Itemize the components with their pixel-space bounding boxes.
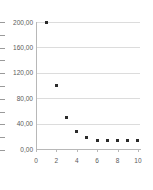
x-tick-mark (97, 150, 98, 152)
x-tick-label: 0 (26, 157, 46, 164)
x-tick-mark (118, 150, 119, 152)
x-tick-label: 8 (108, 157, 128, 164)
x-tick-label: 4 (67, 157, 87, 164)
x-tick-mark (77, 150, 78, 152)
x-tick-mark (36, 150, 37, 152)
x-tick-mark (138, 150, 139, 152)
x-tick-label: 10 (128, 157, 148, 164)
x-tick-label: 6 (87, 157, 107, 164)
scatter-chart: ) 200,00160,00120,0080,0040,000,00 02468… (0, 0, 153, 190)
x-tick-mark (56, 150, 57, 152)
x-axis-tick-labels: 0246810 (0, 0, 153, 190)
x-tick-label: 2 (46, 157, 66, 164)
